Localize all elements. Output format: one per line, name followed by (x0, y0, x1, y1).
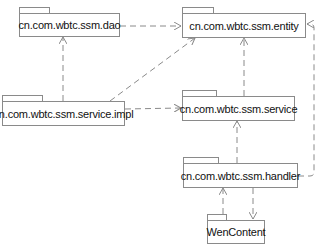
package-label: cn.com.wbtc.ssm.handler (183, 163, 298, 188)
package-label: WenContent (207, 220, 265, 244)
package-label: cn.com.wbtc.ssm.service (182, 96, 295, 121)
package-label: cn.com.wbtc.ssm.service.impl (2, 101, 125, 126)
package-label: cn.com.wbtc.ssm.dao (19, 13, 120, 37)
package-label: cn.com.wbtc.ssm.entity (182, 13, 306, 38)
edge-handler-to-entity (298, 24, 314, 176)
